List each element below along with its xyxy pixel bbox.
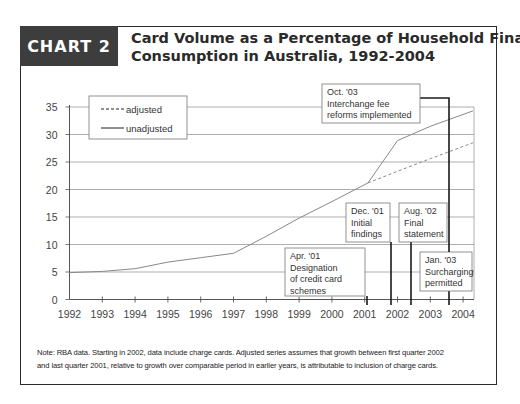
x-tick-label: 1997 [222,308,246,320]
x-tick-label: 1999 [287,308,311,320]
annotation-text: of credit card [290,274,342,284]
y-tick-label: 0 [52,294,58,306]
x-tick-label: 1993 [91,308,115,320]
chart-note: Note: RBA data. Starting in 2002, data i… [37,347,497,372]
note-line1: Note: RBA data. Starting in 2002, data i… [37,347,497,360]
legend-label-unadjusted: unadjusted [126,123,172,134]
y-tick-label: 20 [46,184,58,196]
annotation-text: Interchange fee [327,99,390,109]
annotation-text: Apr. '01 [290,251,320,261]
annotation-text: permitted [425,278,463,288]
annotation-text: statement [404,229,444,239]
x-tick-label: 2004 [451,308,475,320]
annotation-text: reforms implemented [327,110,412,120]
annotation-text: Designation [290,263,338,273]
y-tick-label: 15 [46,211,58,223]
annotation-text: Jan. '03 [425,255,456,265]
annotation-text: Dec. '01 [351,206,384,216]
x-tick-label: 1996 [189,308,213,320]
annotation-apr-01: Apr. '01Designationof credit cardschemes [285,248,367,305]
annotation-text: findings [351,229,383,239]
y-tick-label: 35 [46,101,58,113]
annotation-text: Surcharging [425,267,474,277]
y-tick-label: 25 [46,156,58,168]
series-adjusted [368,143,473,183]
x-tick-label: 2000 [320,308,344,320]
annotation-text: Aug. '02 [404,206,437,216]
x-tick-label: 2001 [353,308,377,320]
note-line2: and last quarter 2001, relative to growt… [37,360,497,373]
annotation-text: schemes [290,286,327,296]
x-tick-label: 1995 [156,308,180,320]
legend-label-adjusted: adjusted [126,104,162,115]
legend-box: adjustedunadjusted [89,96,187,139]
x-tick-label: 1998 [255,308,279,320]
x-tick-label: 2003 [419,308,443,320]
x-tick-label: 2002 [386,308,410,320]
annotation-text: Initial [351,218,372,228]
y-tick-label: 5 [52,266,58,278]
legend: adjustedunadjusted [89,96,187,139]
x-tick-label: 1994 [123,308,147,320]
annotation-text: Final [404,218,424,228]
y-tick-label: 10 [46,239,58,251]
annotation-text: Oct. '03 [327,87,358,97]
annotation-jan-03: Jan. '03Surchargingpermitted [420,252,474,305]
y-tick-label: 30 [46,129,58,141]
x-tick-label: 1992 [58,308,82,320]
line-chart: 0510152025303519921993199419951996199719… [0,0,520,404]
